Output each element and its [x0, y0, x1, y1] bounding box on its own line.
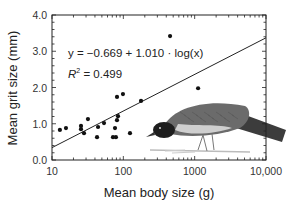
x-tick-label: 100: [115, 165, 133, 177]
data-point: [113, 126, 117, 130]
data-point: [115, 95, 119, 99]
r-squared-label: R2 = 0.499: [68, 67, 122, 80]
y-tick-label: 0.0: [32, 154, 47, 166]
y-tick-label: 4.0: [32, 9, 47, 21]
data-point: [86, 117, 90, 121]
data-point: [82, 131, 86, 135]
data-point: [139, 99, 143, 103]
data-point: [168, 34, 172, 38]
data-point: [121, 92, 125, 96]
y-tick-label: 3.0: [32, 45, 47, 57]
equation-label: y = −0.669 + 1.010 · log(x): [68, 47, 203, 59]
data-point: [64, 126, 68, 130]
data-point: [96, 125, 100, 129]
data-point: [116, 114, 120, 118]
scatter-chart: y = −0.669 + 1.010 · log(x) R2 = 0.499 M…: [0, 0, 299, 208]
data-point: [102, 121, 106, 125]
data-point: [58, 128, 62, 132]
y-tick-label: 1.0: [32, 118, 47, 130]
plot-axes: [52, 15, 266, 160]
x-tick-label: 10: [46, 165, 58, 177]
data-point: [114, 135, 118, 139]
x-axis-title: Mean body size (g): [104, 185, 215, 200]
data-point: [79, 127, 83, 131]
y-tick-label: 2.0: [32, 82, 47, 94]
x-tick-label: 10,000: [250, 165, 282, 177]
data-point: [128, 131, 132, 135]
y-axis-title: Mean grit size (mm): [5, 31, 20, 146]
data-point: [115, 118, 119, 122]
x-tick-label: 1000: [183, 165, 207, 177]
data-point: [196, 86, 200, 90]
data-point: [95, 135, 99, 139]
